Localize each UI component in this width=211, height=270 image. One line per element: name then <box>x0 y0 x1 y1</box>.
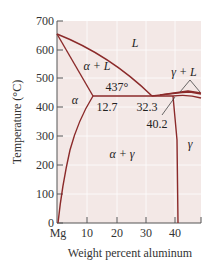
annotation-32-3: 32.3 <box>137 100 158 114</box>
y-tick-200: 200 <box>36 158 54 172</box>
x-tick-labels: Mg 10 20 30 40 <box>50 226 181 240</box>
phase-label-alpha-liquid: α + L <box>83 59 110 73</box>
annotation-12-7: 12.7 <box>97 100 118 114</box>
y-tick-labels: 0 100 200 300 400 500 600 700 <box>36 14 54 230</box>
phase-label-alpha: α <box>72 93 79 107</box>
phase-label-alpha-gamma: α + γ <box>109 147 134 161</box>
x-tick-20: 20 <box>111 226 123 240</box>
x-tick-40: 40 <box>169 226 181 240</box>
y-tick-600: 600 <box>36 43 54 57</box>
annotation-40-2: 40.2 <box>147 117 168 131</box>
y-tick-500: 500 <box>36 71 54 85</box>
y-tick-700: 700 <box>36 14 54 28</box>
x-tick-30: 30 <box>140 226 152 240</box>
phase-label-gamma: γ <box>188 137 193 151</box>
phase-label-liquid: L <box>131 36 139 50</box>
x-axis-title: Weight percent aluminum <box>68 246 193 260</box>
y-tick-300: 300 <box>36 129 54 143</box>
phase-diagram-chart: 0 100 200 300 400 500 600 700 Mg 10 20 3… <box>0 0 211 270</box>
y-tick-400: 400 <box>36 100 54 114</box>
x-tick-10: 10 <box>81 226 93 240</box>
x-tick-mg: Mg <box>50 226 67 240</box>
annotation-eutectic-temp: 437° <box>106 80 129 94</box>
y-axis-title: Temperature (°C) <box>10 80 24 164</box>
y-tick-100: 100 <box>36 187 54 201</box>
plot-area <box>57 21 201 223</box>
phase-label-gamma-liquid: γ + L <box>171 65 197 79</box>
